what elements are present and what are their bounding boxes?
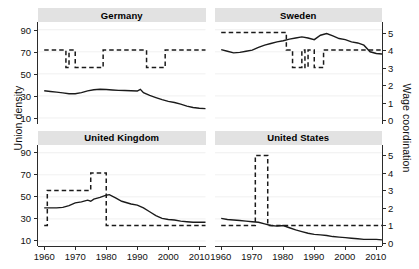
panel-title: Germany xyxy=(38,8,206,22)
y2-tick-label: 1 xyxy=(388,97,404,108)
y-axis-line-left xyxy=(37,22,38,124)
y2-tick-label: 2 xyxy=(388,80,404,91)
x-axis-line xyxy=(215,246,383,247)
facet-panel-united-kingdom: United Kingdom xyxy=(38,131,206,247)
y2-tick-mark xyxy=(383,85,386,86)
y-tick-mark xyxy=(34,152,37,153)
y2-tick-label: 4 xyxy=(388,167,404,178)
x-tick-label: 1960 xyxy=(34,251,55,262)
y2-tick-mark xyxy=(383,173,386,174)
x-tick-mark xyxy=(221,247,222,250)
x-tick-label: 2000 xyxy=(334,251,355,262)
x-tick-label: 2010 xyxy=(365,251,386,262)
y2-tick-label: 5 xyxy=(388,27,404,38)
x-tick-mark xyxy=(314,247,315,250)
y2-tick-label: 5 xyxy=(388,150,404,161)
x-tick-label: 1970 xyxy=(65,251,86,262)
x-tick-mark xyxy=(137,247,138,250)
plot-area xyxy=(38,22,206,124)
series-wage-coordination xyxy=(44,50,205,68)
series-union-density xyxy=(221,34,382,54)
y2-tick-label: 0 xyxy=(388,237,404,248)
y2-tick-label: 1 xyxy=(388,220,404,231)
y-tick-label: 70 xyxy=(9,169,31,180)
y-axis-line-left xyxy=(37,145,38,247)
series-union-density xyxy=(44,89,205,108)
facet-grid: GermanySwedenUnited KingdomUnited States xyxy=(38,8,382,246)
x-tick-label: 1990 xyxy=(127,251,148,262)
y2-tick-label: 0 xyxy=(388,115,404,126)
plot-area xyxy=(215,145,383,247)
x-tick-mark xyxy=(106,247,107,250)
y2-tick-label: 2 xyxy=(388,202,404,213)
x-tick-mark xyxy=(199,247,200,250)
facet-panel-germany: Germany xyxy=(38,8,206,124)
x-tick-label: 1990 xyxy=(303,251,324,262)
series-wage-coordination xyxy=(221,33,382,68)
y2-tick-mark xyxy=(383,208,386,209)
panel-title: United States xyxy=(215,131,383,145)
y-axis-line-right xyxy=(382,22,383,124)
x-tick-label: 2010 xyxy=(189,251,210,262)
y2-tick-mark xyxy=(383,190,386,191)
y-tick-mark xyxy=(34,52,37,53)
x-tick-mark xyxy=(345,247,346,250)
plot-area xyxy=(215,22,383,124)
y2-tick-mark xyxy=(383,155,386,156)
x-tick-label: 1970 xyxy=(241,251,262,262)
panel-title: Sweden xyxy=(215,8,383,22)
facet-panel-sweden: Sweden xyxy=(215,8,383,124)
facet-panel-united-states: United States xyxy=(215,131,383,247)
y2-tick-mark xyxy=(383,243,386,244)
y-tick-label: 70 xyxy=(9,46,31,57)
y-tick-label: 50 xyxy=(9,191,31,202)
series-wage-coordination xyxy=(221,155,382,225)
y2-tick-label: 3 xyxy=(388,185,404,196)
y-tick-label: 30 xyxy=(9,213,31,224)
panel-title: United Kingdom xyxy=(38,131,206,145)
x-tick-mark xyxy=(283,247,284,250)
y-axis-line-right xyxy=(382,145,383,247)
chart-figure: Union density Wage coordination GermanyS… xyxy=(0,0,419,269)
x-tick-mark xyxy=(44,247,45,250)
series-wage-coordination xyxy=(44,173,205,226)
x-tick-mark xyxy=(376,247,377,250)
x-tick-label: 1980 xyxy=(96,251,117,262)
x-tick-mark xyxy=(168,247,169,250)
y2-tick-label: 3 xyxy=(388,62,404,73)
y-tick-label: 10 xyxy=(9,112,31,123)
x-tick-label: 1960 xyxy=(210,251,231,262)
x-tick-label: 1980 xyxy=(272,251,293,262)
y-tick-mark xyxy=(34,74,37,75)
y2-tick-mark xyxy=(383,103,386,104)
plot-area xyxy=(38,145,206,247)
x-tick-label: 2000 xyxy=(158,251,179,262)
y-tick-mark xyxy=(34,96,37,97)
y-tick-label: 90 xyxy=(9,24,31,35)
series-union-density xyxy=(44,194,205,222)
y2-tick-mark xyxy=(383,225,386,226)
y2-tick-mark xyxy=(383,33,386,34)
series-union-density xyxy=(221,218,382,240)
y-tick-label: 90 xyxy=(9,147,31,158)
y2-tick-mark xyxy=(383,50,386,51)
y2-tick-mark xyxy=(383,120,386,121)
y-tick-mark xyxy=(34,174,37,175)
x-axis-line xyxy=(38,246,206,247)
y-tick-label: 10 xyxy=(9,235,31,246)
y-tick-label: 30 xyxy=(9,90,31,101)
y-tick-mark xyxy=(34,196,37,197)
x-tick-mark xyxy=(252,247,253,250)
y-tick-mark xyxy=(34,218,37,219)
y-tick-mark xyxy=(34,30,37,31)
y2-tick-label: 4 xyxy=(388,45,404,56)
x-tick-mark xyxy=(75,247,76,250)
y2-tick-mark xyxy=(383,68,386,69)
y-tick-label: 50 xyxy=(9,68,31,79)
y-tick-mark xyxy=(34,240,37,241)
y-tick-mark xyxy=(34,118,37,119)
